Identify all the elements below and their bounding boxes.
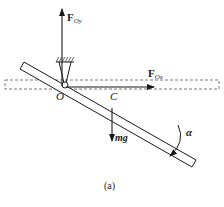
pivot-label: O [56, 91, 64, 102]
center-of-mass-label: C [110, 91, 117, 102]
diagram-canvas [0, 0, 224, 207]
figure-caption: (a) [104, 181, 115, 191]
force-ox-label: FOx [148, 68, 163, 81]
horizontal-position-outline [5, 80, 219, 89]
alpha-label: α [186, 127, 192, 138]
force-oy-label: FOy [67, 12, 82, 25]
inclined-rod [20, 62, 196, 167]
fixed-support [56, 57, 74, 83]
weight-label: mg [115, 133, 128, 143]
